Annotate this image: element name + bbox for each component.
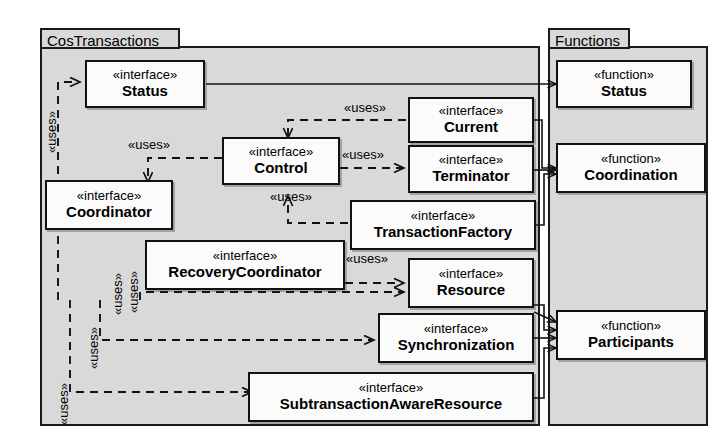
node-current[interactable]: «interface» Current	[408, 97, 534, 143]
edge-label-uses-recovery-resource: «uses»	[346, 252, 388, 265]
edge-label-uses-coordinator-subres: «uses»	[57, 383, 70, 425]
node-function-status-stereotype: «function»	[594, 68, 654, 82]
node-function-participants-name: Participants	[588, 334, 674, 351]
edge-label-uses-coordinator-recovery: «uses»	[127, 271, 140, 313]
node-synchronization[interactable]: «interface» Synchronization	[378, 313, 534, 363]
node-function-coordination-stereotype: «function»	[601, 152, 661, 166]
node-coordinator[interactable]: «interface» Coordinator	[45, 180, 173, 230]
node-control-name: Control	[254, 160, 307, 177]
node-subtransaction-aware-resource-stereotype: «interface»	[359, 381, 423, 395]
node-subtransaction-aware-resource[interactable]: «interface» SubtransactionAwareResource	[248, 372, 534, 422]
node-function-status[interactable]: «function» Status	[556, 60, 692, 108]
node-function-participants[interactable]: «function» Participants	[556, 310, 706, 360]
node-control[interactable]: «interface» Control	[222, 137, 340, 185]
node-transaction-factory[interactable]: «interface» TransactionFactory	[350, 200, 536, 250]
node-status-name: Status	[122, 83, 168, 100]
edge-label-uses-coordinator-sync: «uses»	[87, 327, 100, 369]
node-recovery-coordinator-name: RecoveryCoordinator	[168, 264, 321, 281]
node-function-participants-stereotype: «function»	[601, 319, 661, 333]
edge-label-uses-current-control: «uses»	[344, 101, 386, 114]
node-current-name: Current	[444, 119, 498, 136]
node-synchronization-name: Synchronization	[398, 337, 515, 354]
edge-label-uses-status: «uses»	[45, 111, 58, 153]
node-recovery-coordinator-stereotype: «interface»	[213, 249, 277, 263]
node-function-status-name: Status	[601, 83, 647, 100]
edge-label-uses-txfactory-control: «uses»	[270, 190, 312, 203]
node-transaction-factory-stereotype: «interface»	[411, 209, 475, 223]
node-status-stereotype: «interface»	[113, 68, 177, 82]
node-synchronization-stereotype: «interface»	[424, 322, 488, 336]
node-function-coordination-name: Coordination	[584, 167, 677, 184]
edge-label-uses-control-coordinator: «uses»	[128, 138, 170, 151]
package-functions-label: Functions	[555, 32, 620, 49]
node-recovery-coordinator[interactable]: «interface» RecoveryCoordinator	[145, 240, 345, 290]
node-resource-name: Resource	[437, 282, 505, 299]
node-coordinator-name: Coordinator	[66, 204, 152, 221]
node-terminator[interactable]: «interface» Terminator	[408, 145, 534, 193]
package-cos-transactions-label: CosTransactions	[47, 32, 159, 49]
edge-label-uses-control-terminator: «uses»	[342, 148, 384, 161]
node-function-coordination[interactable]: «function» Coordination	[556, 143, 706, 193]
node-control-stereotype: «interface»	[249, 145, 313, 159]
node-coordinator-stereotype: «interface»	[77, 189, 141, 203]
edge-label-uses-coordinator-resource: «uses»	[111, 273, 124, 315]
node-subtransaction-aware-resource-name: SubtransactionAwareResource	[280, 396, 502, 413]
package-cos-transactions-tab: CosTransactions	[40, 28, 180, 49]
uml-diagram-canvas: CosTransactions Functions	[0, 0, 717, 444]
node-status[interactable]: «interface» Status	[85, 60, 205, 108]
node-terminator-name: Terminator	[432, 168, 509, 185]
package-functions-tab: Functions	[548, 28, 630, 49]
node-current-stereotype: «interface»	[439, 104, 503, 118]
node-transaction-factory-name: TransactionFactory	[374, 224, 512, 241]
node-terminator-stereotype: «interface»	[439, 153, 503, 167]
node-resource[interactable]: «interface» Resource	[408, 258, 534, 308]
node-resource-stereotype: «interface»	[439, 267, 503, 281]
